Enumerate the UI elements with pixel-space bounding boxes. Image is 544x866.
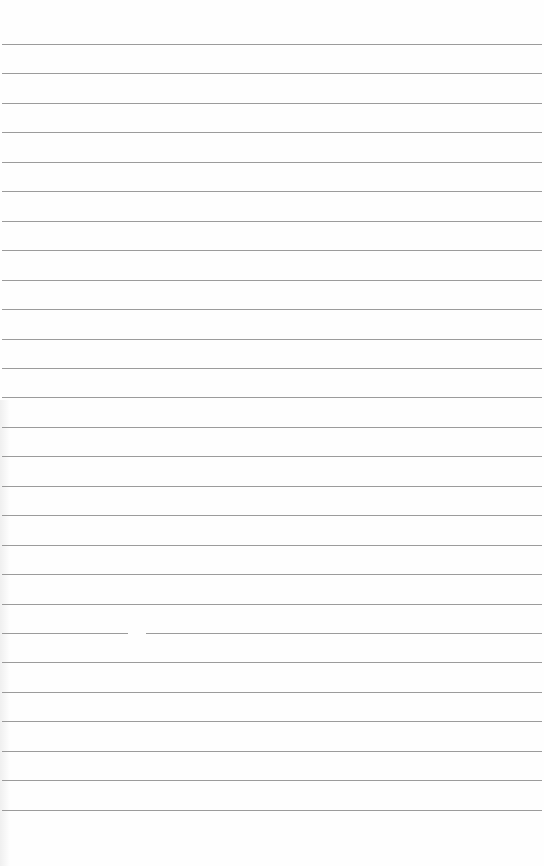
- lined-paper-sheet: [0, 0, 544, 866]
- ruled-line: [2, 810, 542, 811]
- ruled-line-gap: [128, 632, 146, 635]
- ruled-line: [2, 162, 542, 163]
- ruled-line: [2, 662, 542, 663]
- ruled-line: [2, 368, 542, 369]
- ruled-line: [2, 309, 542, 310]
- ruled-line: [2, 456, 542, 457]
- ruled-line: [2, 103, 542, 104]
- ruled-line: [2, 604, 542, 605]
- ruled-line: [2, 486, 542, 487]
- ruled-line: [2, 574, 542, 575]
- ruled-line: [2, 250, 542, 251]
- ruled-line: [2, 780, 542, 781]
- ruled-line: [2, 132, 542, 133]
- ruled-line: [2, 73, 542, 74]
- ruled-line: [2, 545, 542, 546]
- ruled-line: [2, 751, 542, 752]
- ruled-line: [2, 339, 542, 340]
- ruled-line: [2, 427, 542, 428]
- ruled-line: [2, 692, 542, 693]
- ruled-line: [2, 191, 542, 192]
- ruled-line: [2, 721, 542, 722]
- ruled-line: [2, 44, 542, 45]
- ruled-line: [2, 221, 542, 222]
- ruled-line: [2, 280, 542, 281]
- ruled-line: [2, 397, 542, 398]
- ruled-line: [2, 515, 542, 516]
- ruled-line: [2, 633, 542, 634]
